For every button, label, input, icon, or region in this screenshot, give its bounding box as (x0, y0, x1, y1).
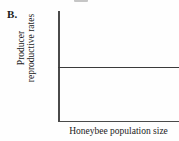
data-series-line (58, 67, 179, 69)
scan-artifact (74, 0, 88, 2)
y-axis-label: Producer reproductive rates (11, 3, 41, 93)
x-axis-line (58, 121, 179, 123)
y-axis-label-line-2: reproductive rates (26, 14, 36, 82)
y-axis-label-line-1: Producer (16, 31, 26, 65)
x-axis-label: Honeybee population size (58, 126, 179, 136)
figure-panel-b: B. Producer reproductive rates Honeybee … (0, 0, 179, 141)
